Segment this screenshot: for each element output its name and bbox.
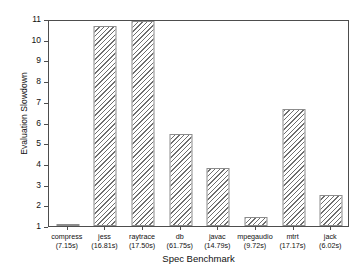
y-tick-label: 1	[36, 221, 41, 232]
y-tick-1: 1	[0, 227, 48, 228]
x-axis-title: Spec Benchmark	[48, 253, 349, 264]
y-tick-6: 6	[0, 124, 48, 125]
x-tick-label-jack: jack(6.02s)	[298, 232, 361, 251]
y-tick-5: 5	[0, 144, 48, 145]
bar-db	[169, 134, 192, 226]
y-tick-label: 7	[36, 97, 41, 108]
bar-compress	[56, 224, 79, 226]
benchmark-time: (6.02s)	[298, 241, 361, 250]
x-tick-mark	[217, 227, 218, 230]
bar-jack	[320, 195, 343, 226]
y-tick-label: 5	[36, 138, 41, 149]
x-tick-mark	[255, 227, 256, 230]
y-tick-label: 4	[36, 159, 41, 170]
plot-area	[48, 20, 349, 227]
bar-slot	[237, 21, 275, 226]
bar-chart-figure: Evaluation Slowdown 1110987654321 compre…	[0, 0, 361, 276]
y-tick-mark	[44, 227, 48, 228]
y-tick-label: 10	[32, 35, 41, 46]
y-tick-3: 3	[0, 186, 48, 187]
y-tick-11: 11	[0, 20, 48, 21]
y-tick-7: 7	[0, 103, 48, 104]
x-tick-mark	[293, 227, 294, 230]
y-tick-label: 11	[32, 14, 41, 25]
bar-mtrt	[282, 109, 305, 226]
bar-slot	[312, 21, 350, 226]
y-tick-10: 10	[0, 41, 48, 42]
y-tick-2: 2	[0, 206, 48, 207]
bar-mpegaudio	[244, 217, 267, 226]
y-tick-label: 8	[36, 76, 41, 87]
y-tick-8: 8	[0, 82, 48, 83]
y-tick-9: 9	[0, 61, 48, 62]
bar-jess	[94, 26, 117, 226]
y-tick-label: 2	[36, 200, 41, 211]
y-tick-label: 6	[36, 118, 41, 129]
bars-container	[49, 21, 348, 226]
bar-raytrace	[132, 21, 155, 226]
bar-javac	[207, 168, 230, 226]
bar-slot	[162, 21, 200, 226]
bar-slot	[200, 21, 238, 226]
bar-slot	[124, 21, 162, 226]
x-tick-mark	[67, 227, 68, 230]
benchmark-name: jack	[298, 232, 361, 241]
x-tick-mark	[330, 227, 331, 230]
x-tick-mark	[104, 227, 105, 230]
bar-slot	[87, 21, 125, 226]
y-tick-label: 3	[36, 180, 41, 191]
bar-slot	[275, 21, 313, 226]
bar-slot	[49, 21, 87, 226]
y-tick-4: 4	[0, 165, 48, 166]
x-tick-mark	[180, 227, 181, 230]
y-tick-label: 9	[36, 55, 41, 66]
x-tick-mark	[142, 227, 143, 230]
